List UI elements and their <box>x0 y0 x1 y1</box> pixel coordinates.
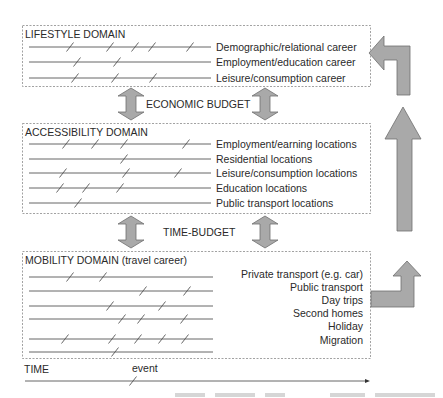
time-axis <box>25 377 370 386</box>
row-label-migration: Migration <box>320 334 363 346</box>
feedback-arrow-to-lifestyle-icon <box>369 36 410 95</box>
double-arrow-icon <box>118 88 144 120</box>
row-label-education-locations: Education locations <box>216 182 307 194</box>
double-arrow-icon <box>118 216 144 248</box>
row-label-employment-earning-locations: Employment/earning locations <box>216 138 357 150</box>
accessibility-domain-title: ACCESSIBILITY DOMAIN <box>25 126 148 138</box>
row-label-residential-locations: Residential locations <box>216 153 312 165</box>
row-label-day-trips: Day trips <box>322 294 363 306</box>
feedback-arrow-from-mobility-icon <box>371 261 421 307</box>
row-label-second-homes: Second homes <box>293 307 363 319</box>
double-arrow-icon <box>252 88 278 120</box>
event-label: event <box>132 362 158 374</box>
row-label-public-transport: Public transport <box>290 281 363 293</box>
time-arrowhead-icon <box>365 379 370 383</box>
row-label-leisure-consumption-locations: Leisure/consumption locations <box>216 167 357 179</box>
row-label-private-transport: Private transport (e.g. car) <box>241 268 363 280</box>
mobility-domain-title: MOBILITY DOMAIN (travel career) <box>25 254 187 266</box>
row-label-employment-education-career: Employment/education career <box>216 56 356 68</box>
double-arrow-icon <box>252 216 278 248</box>
cropped-footer-marks <box>175 393 435 397</box>
row-label-demographic-relational-career: Demographic/relational career <box>216 41 357 53</box>
time-axis-label: TIME <box>24 363 49 375</box>
economic-budget-label: ECONOMIC BUDGET <box>146 98 250 110</box>
career-lines <box>29 43 213 357</box>
time-budget-label: TIME-BUDGET <box>163 226 235 238</box>
feedback-arrow-up-icon <box>385 107 421 231</box>
row-label-holiday: Holiday <box>328 320 363 332</box>
row-label-leisure-consumption-career: Leisure/consumption career <box>216 72 346 84</box>
row-label-public-transport-locations: Public transport locations <box>216 197 333 209</box>
lifestyle-domain-title: LIFESTYLE DOMAIN <box>25 28 125 40</box>
